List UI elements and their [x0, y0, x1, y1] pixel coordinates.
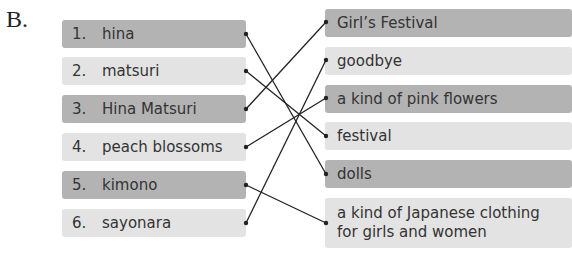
item-definition-line-2: for girls and women: [337, 223, 487, 242]
section-label: B.: [6, 6, 28, 33]
item-definition: festival: [337, 127, 392, 146]
left-item-1[interactable]: 1. hina: [62, 20, 246, 48]
line-peach-pinkflowers: [246, 98, 326, 147]
line-hina-dolls: [246, 34, 326, 174]
line-sayonara-goodbye: [246, 60, 326, 223]
left-item-5[interactable]: 5. kimono: [62, 171, 246, 199]
item-term: matsuri: [102, 62, 159, 81]
left-item-2[interactable]: 2. matsuri: [62, 57, 246, 85]
item-term: peach blossoms: [102, 138, 223, 157]
left-item-4[interactable]: 4. peach blossoms: [62, 133, 246, 161]
item-definition: a kind of pink flowers: [337, 90, 498, 109]
item-number: 4.: [72, 138, 102, 157]
item-definition: Girl’s Festival: [337, 14, 438, 33]
item-number: 1.: [72, 25, 102, 44]
item-term: Hina Matsuri: [102, 100, 197, 119]
left-item-3[interactable]: 3. Hina Matsuri: [62, 95, 246, 123]
right-item-girls-festival[interactable]: Girl’s Festival: [325, 9, 572, 37]
item-definition-line-1: a kind of Japanese clothing: [337, 204, 540, 223]
right-item-goodbye[interactable]: goodbye: [325, 47, 572, 75]
item-term: hina: [102, 25, 134, 44]
item-definition: goodbye: [337, 52, 402, 71]
left-item-6[interactable]: 6. sayonara: [62, 209, 246, 237]
item-term: kimono: [102, 176, 157, 195]
line-hinamatsuri-girlsfestival: [246, 22, 326, 109]
item-number: 3.: [72, 100, 102, 119]
line-matsuri-festival: [246, 71, 326, 136]
right-item-festival[interactable]: festival: [325, 122, 572, 150]
item-number: 5.: [72, 176, 102, 195]
item-number: 6.: [72, 214, 102, 233]
right-item-dolls[interactable]: dolls: [325, 160, 572, 188]
item-number: 2.: [72, 62, 102, 81]
item-definition: dolls: [337, 165, 372, 184]
item-term: sayonara: [102, 214, 171, 233]
right-item-pink-flowers[interactable]: a kind of pink flowers: [325, 85, 572, 113]
right-item-japanese-clothing[interactable]: a kind of Japanese clothing for girls an…: [325, 198, 572, 248]
line-kimono-clothing: [246, 185, 326, 223]
